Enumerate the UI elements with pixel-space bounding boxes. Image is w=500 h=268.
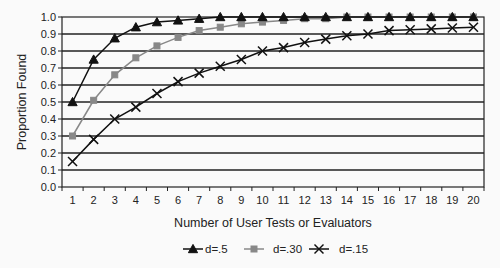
y-axis-title: Proportion Found <box>15 54 29 151</box>
y-tick-label: 0.5 <box>41 96 56 108</box>
x-tick-label: 20 <box>467 194 479 206</box>
x-tick-label: 14 <box>341 194 353 206</box>
y-tick-label: 0.2 <box>41 147 56 159</box>
y-tick-label: 0.3 <box>41 130 56 142</box>
line-chart: Proportion Found 0.00.10.20.30.40.50.60.… <box>0 0 500 268</box>
y-tick-label: 0.7 <box>41 62 56 74</box>
y-tick-label: 1.0 <box>41 11 56 23</box>
x-marker <box>68 157 77 166</box>
square-marker <box>196 28 202 34</box>
x-tick-label: 12 <box>299 194 311 206</box>
legend-label: d=.30 <box>273 243 302 255</box>
x-axis-title: Number of User Tests or Evaluators <box>174 216 372 230</box>
x-axis-ticks: 1234567891011121314151617181920 <box>62 187 484 206</box>
y-tick-label: 0.4 <box>41 113 56 125</box>
series-d15 <box>68 23 478 166</box>
y-tick-label: 0.0 <box>41 181 56 193</box>
gridlines <box>62 34 484 170</box>
square-marker <box>217 24 223 30</box>
x-tick-label: 10 <box>256 194 268 206</box>
series-d5 <box>68 12 478 105</box>
x-tick-label: 15 <box>362 194 374 206</box>
legend-item: d=.5 <box>183 243 228 255</box>
series-line <box>73 17 474 136</box>
x-marker <box>237 55 246 64</box>
legend: d=.5d=.30d=.15 <box>183 243 368 255</box>
x-tick-label: 1 <box>69 194 75 206</box>
x-tick-label: 6 <box>175 194 181 206</box>
x-marker <box>195 69 204 78</box>
y-tick-label: 0.9 <box>41 28 56 40</box>
x-marker <box>131 103 140 112</box>
x-tick-label: 5 <box>154 194 160 206</box>
x-tick-label: 13 <box>320 194 332 206</box>
series-group <box>68 12 478 166</box>
series-d30 <box>70 14 477 139</box>
square-marker <box>112 72 118 78</box>
x-tick-label: 16 <box>383 194 395 206</box>
x-tick-label: 17 <box>404 194 416 206</box>
x-tick-label: 3 <box>112 194 118 206</box>
x-tick-label: 19 <box>446 194 458 206</box>
square-marker <box>175 34 181 40</box>
x-tick-label: 2 <box>91 194 97 206</box>
y-tick-label: 0.1 <box>41 164 56 176</box>
square-marker <box>251 246 257 252</box>
x-tick-label: 7 <box>196 194 202 206</box>
legend-label: d=.15 <box>339 243 368 255</box>
x-tick-label: 8 <box>217 194 223 206</box>
x-tick-label: 18 <box>425 194 437 206</box>
triangle-marker <box>110 34 119 42</box>
x-marker <box>152 89 161 98</box>
square-marker <box>70 133 76 139</box>
y-axis-ticks: 0.00.10.20.30.40.50.60.70.80.91.0 <box>41 11 62 193</box>
y-tick-label: 0.6 <box>41 79 56 91</box>
y-tick-label: 0.8 <box>41 45 56 57</box>
legend-item: d=.30 <box>244 243 302 255</box>
y-axis-title-group: Proportion Found <box>15 54 29 151</box>
legend-label: d=.5 <box>205 243 228 255</box>
x-tick-label: 11 <box>278 194 289 206</box>
x-marker <box>216 62 225 71</box>
x-tick-label: 4 <box>133 194 139 206</box>
square-marker <box>91 97 97 103</box>
x-tick-label: 9 <box>238 194 244 206</box>
square-marker <box>154 43 160 49</box>
series-line <box>73 27 474 161</box>
legend-item: d=.15 <box>309 243 368 255</box>
square-marker <box>133 55 139 61</box>
square-marker <box>238 21 244 27</box>
